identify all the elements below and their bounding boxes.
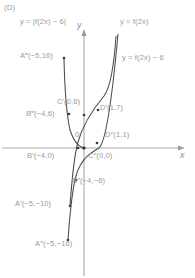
point-b-prime: [77, 147, 80, 150]
label-a-prime: A′(−5,−10): [15, 200, 51, 208]
point-d-double-prime: [96, 142, 99, 145]
y-axis-label: y: [77, 20, 82, 30]
origin-label: 0: [75, 130, 79, 139]
curve-label-abs-f2x-minus-6: y = |f(2x) − 6|: [20, 18, 66, 26]
point-c-double-prime: [82, 146, 85, 149]
figure-panel-d: (D) y = |f(2x) − 6| y = f(2x) y = f(2x) …: [0, 0, 195, 278]
point-c-prime: [83, 114, 86, 117]
label-a-triple-prime-top: A‴(−5,16): [20, 52, 53, 60]
point-d-prime: [97, 109, 100, 112]
label-b-prime: B′(−4,0): [27, 152, 54, 160]
label-c-double-prime: C″(0,0): [88, 152, 113, 160]
coordinate-plot: [0, 0, 195, 278]
label-a-double-prime: A″(−5,−16): [35, 240, 72, 248]
label-b-double-prime: B″(−4,−6): [72, 177, 105, 185]
point-b-triple-prime: [68, 113, 71, 116]
label-d-prime: D′(1,7): [100, 104, 123, 112]
label-b-triple-prime: B‴(−4,6): [26, 110, 55, 118]
curve-label-f2x: y = f(2x): [120, 18, 149, 26]
label-d-double-prime: D″(1,1): [105, 131, 130, 139]
curve-label-f2x-minus-6: y = f(2x) − 6: [122, 54, 164, 62]
label-c-prime: C′(0,6): [57, 98, 80, 106]
x-axis-label: x: [180, 150, 185, 160]
panel-label: (D): [4, 3, 15, 12]
point-a-triple-prime: [63, 57, 66, 60]
